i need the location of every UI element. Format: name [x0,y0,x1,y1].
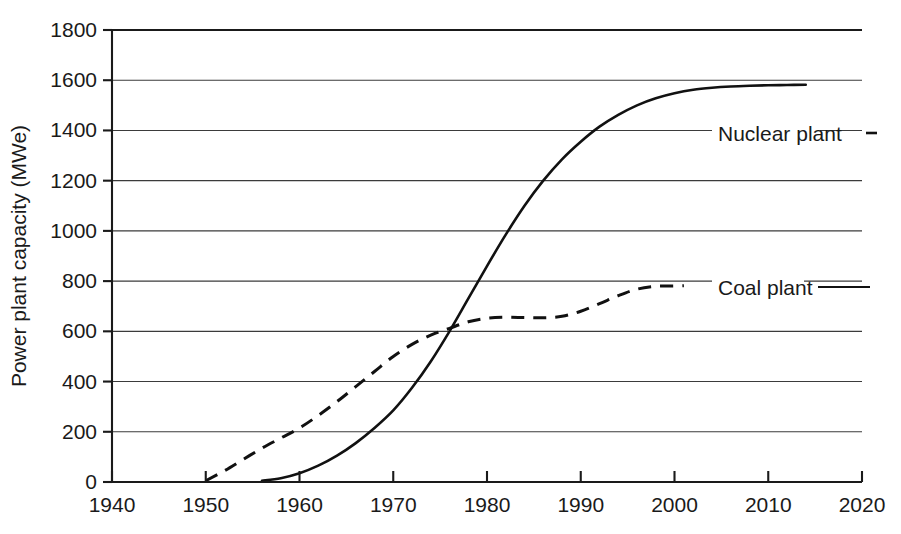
nuclear-plant-annotation: Nuclear plant [718,122,842,145]
y-tick-label-1000: 1000 [50,219,97,242]
y-tick-label-800: 800 [62,269,97,292]
x-tick-label-2000: 2000 [651,493,698,516]
x-tick-label-1970: 1970 [370,493,417,516]
y-axis-title: Power plant capacity (MWe) [7,125,30,387]
y-tick-label-1600: 1600 [50,68,97,91]
x-tick-label-1980: 1980 [464,493,511,516]
y-tick-label-600: 600 [62,319,97,342]
x-axis-tick-labels: 194019501960197019801990200020102020 [89,493,886,516]
y-tick-label-1400: 1400 [50,118,97,141]
y-tick-label-0: 0 [85,470,97,493]
chart-container: 020040060080010001200140016001800 194019… [0,0,901,534]
y-tick-label-1800: 1800 [50,18,97,41]
y-tick-label-200: 200 [62,420,97,443]
x-tick-label-2020: 2020 [839,493,886,516]
y-tick-label-400: 400 [62,370,97,393]
x-tick-label-2010: 2010 [745,493,792,516]
x-tick-label-1960: 1960 [276,493,323,516]
x-tick-label-1940: 1940 [89,493,136,516]
y-tick-label-1200: 1200 [50,169,97,192]
x-tick-label-1990: 1990 [557,493,604,516]
coal-plant-annotation: Coal plant [718,276,813,299]
x-tick-label-1950: 1950 [182,493,229,516]
line-chart: 020040060080010001200140016001800 194019… [0,0,901,534]
